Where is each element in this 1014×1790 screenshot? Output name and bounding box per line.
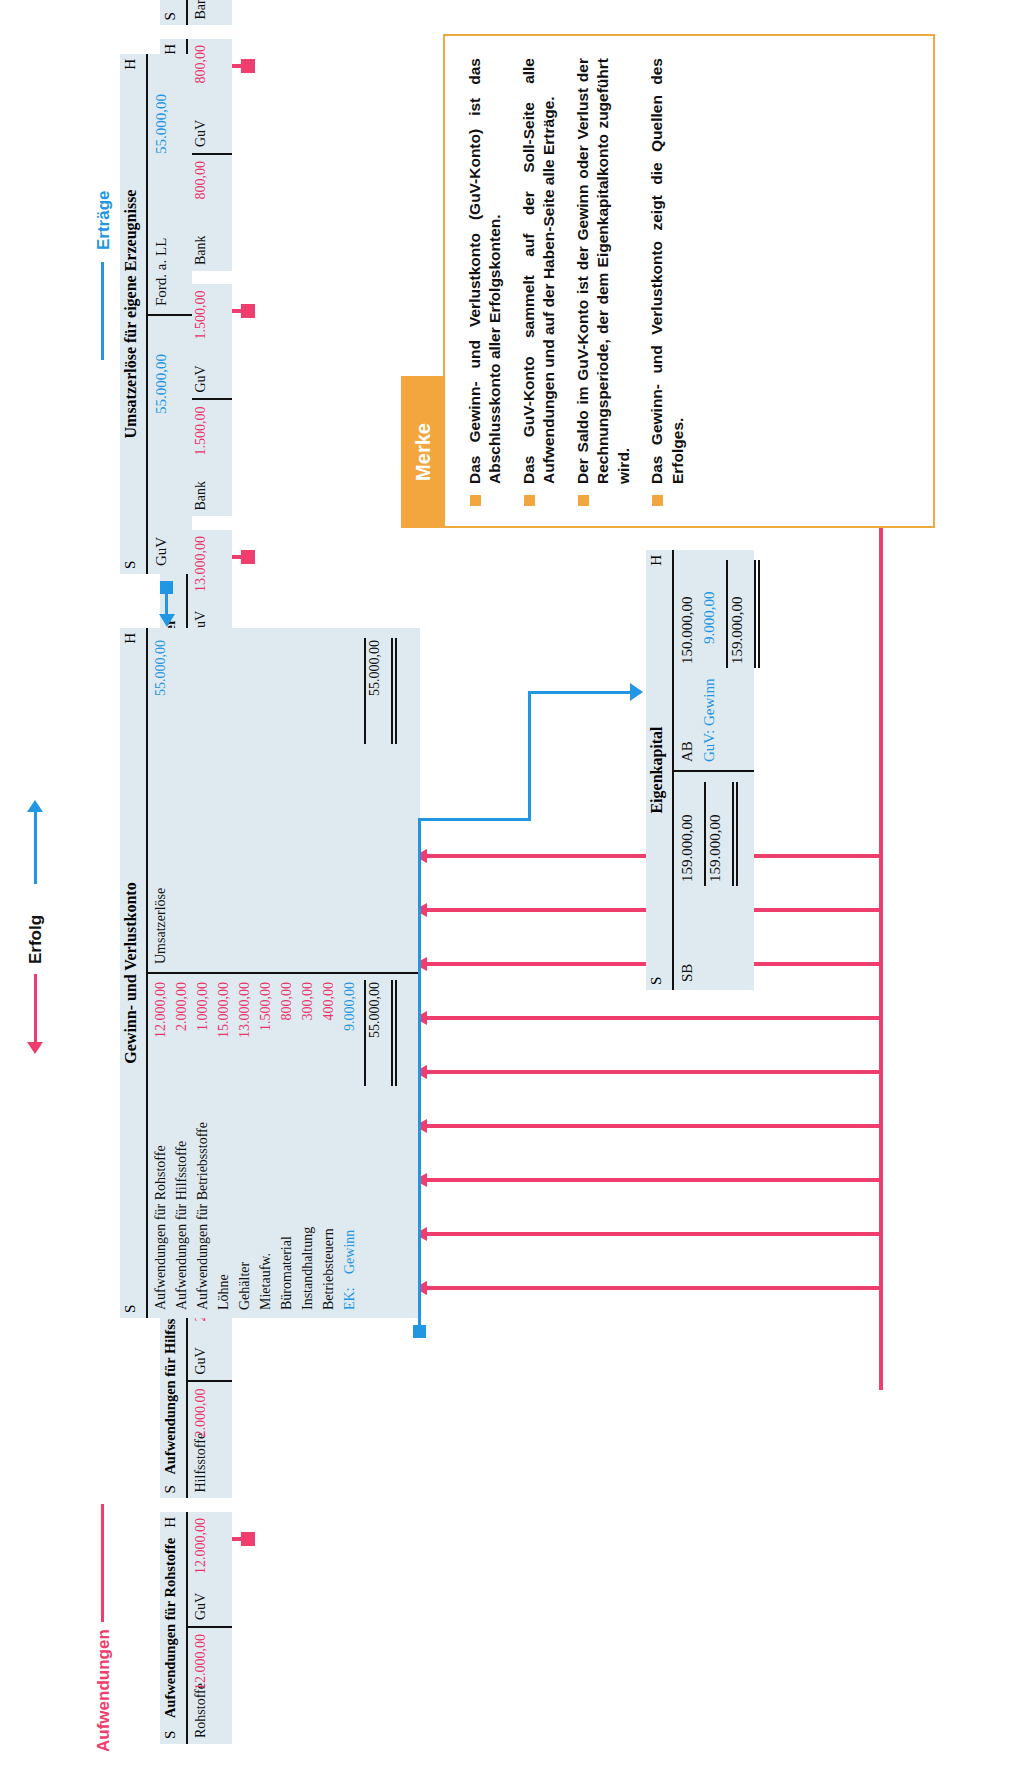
expense-connector-stub-0 (232, 1537, 244, 1541)
guv-debit-text-7: Instandhaltung (301, 1227, 316, 1310)
equity-credit-rule (726, 560, 728, 668)
equity-header: S Eigenkapital H (646, 550, 674, 990)
equity-haben-label: H (648, 555, 665, 566)
guv-debit-amount-1: 2.000,00 (175, 982, 190, 1082)
expense-riser-1 (426, 1232, 879, 1236)
merke-bullet-3: Das Gewinn- und Verlustkonto zeigt die Q… (647, 58, 688, 506)
expense-header-7: SFremdinstandhaltungH (160, 0, 188, 26)
expense-credit-amount-0: 12.000,00 (194, 1518, 209, 1574)
expense-debit-text-7: Bank (194, 0, 209, 20)
guv-debit-amount-5: 1.500,00 (259, 982, 274, 1082)
expense-connector-stub-5 (232, 310, 244, 314)
expense-body-7: Bank300,00GuV300,00 (188, 0, 232, 26)
expense-riser-2 (426, 1178, 879, 1182)
guv-equity-line-v3 (528, 691, 632, 694)
expense-haben-label-0: H (162, 1517, 179, 1528)
revenue-header: S Umsatzerlöse für eigene Erzeugnisse H (120, 54, 148, 574)
equity-credit-amount-1: 9.000,00 (702, 592, 718, 645)
equity-title: Eigenkapital (648, 550, 666, 990)
expense-body-0: Rohstoffe12.000,00GuV12.000,00 (188, 1512, 232, 1744)
expense-debit-text-1: Hilfsstoffe (194, 1433, 209, 1493)
merke-bullet-text-0: Das Gewinn- und Verlustkonto (GuV-Konto)… (466, 58, 503, 484)
equity-credit-dbl-2 (758, 560, 760, 668)
guv-credit-dbl-2 (395, 638, 397, 744)
flow-arrow-erfolg-head-blue (27, 800, 43, 812)
expense-header-0: SAufwendungen für RohstoffeH (160, 1512, 188, 1744)
expense-riser-4 (426, 1070, 879, 1074)
revenue-account: S Umsatzerlöse für eigene Erzeugnisse H … (120, 54, 192, 574)
merke-bullet-marker-3 (652, 495, 663, 506)
guv-credit-amount-0: 55.000,00 (154, 640, 169, 740)
merke-note-box: Merke Das Gewinn- und Verlustkonto (GuV-… (443, 34, 935, 528)
merke-bullet-0: Das Gewinn- und Verlustkonto (GuV-Konto)… (465, 58, 506, 506)
expense-riser-3 (426, 1124, 879, 1128)
guv-debit-balance-amount: 9.000,00 (343, 982, 358, 1082)
expense-connector-stub-4 (232, 555, 244, 559)
flow-arrow-erfolg-head (27, 1042, 43, 1054)
guv-header: S Gewinn- und Verlustkonto H (120, 628, 148, 1318)
expense-credit-amount-4: 13.000,00 (194, 536, 209, 592)
guv-equity-line-vertical (418, 818, 530, 821)
flow-arrow-erfolg-left (34, 974, 37, 1046)
expense-center-divider-1 (188, 1380, 232, 1382)
guv-credit-rule (364, 638, 366, 744)
guv-debit-dbl-2 (395, 980, 397, 1086)
guv-debit-total: 55.000,00 (368, 982, 383, 1082)
guv-debit-amount-8: 400,00 (322, 982, 337, 1082)
revenue-connector-line (165, 585, 168, 615)
revenue-debit-amount: 55.000,00 (154, 354, 170, 414)
expense-connector-stub-6 (232, 64, 244, 68)
guv-debit-rule (364, 980, 366, 1086)
expense-credit-text-0: GuV (194, 1593, 209, 1620)
expense-account-7: SFremdinstandhaltungHBank300,00GuV300,00 (160, 0, 232, 26)
equity-credit-text-1: GuV: Gewinn (702, 679, 718, 762)
guv-title: Gewinn- und Verlustkonto (122, 628, 140, 1318)
guv-debit-amount-4: 13.000,00 (238, 982, 253, 1082)
merke-bullet-1: Das GuV-Konto sammelt auf der Soll-Seite… (519, 58, 560, 506)
guv-debit-amount-7: 300,00 (301, 982, 316, 1082)
guv-debit-dbl-1 (391, 980, 393, 1086)
equity-credit-amount-0: 150.000,00 (680, 597, 696, 665)
expense-credit-text-6: GuV (194, 120, 209, 147)
equity-debit-amount: 159.000,00 (680, 815, 696, 883)
guv-debit-amount-6: 800,00 (280, 982, 295, 1082)
flow-arrow-erfolg-right (34, 812, 37, 884)
expense-title-0: Aufwendungen für Rohstoffe (162, 1512, 179, 1744)
revenue-center-divider (148, 314, 192, 316)
expense-center-divider-0 (188, 1626, 232, 1628)
flow-label-aufwendungen: Aufwendungen (94, 1629, 114, 1752)
expense-debit-amount-1: 2.000,00 (194, 1389, 209, 1438)
merke-bullet-2: Der Saldo im GuV-Konto ist der Gewinn od… (573, 58, 634, 506)
equity-body: SB 159.000,00 159.000,00 AB 150.000,00 G… (674, 550, 754, 990)
expense-debit-text-6: Bank (194, 235, 209, 265)
equity-account: S Eigenkapital H SB 159.000,00 159.000,0… (646, 550, 754, 990)
guv-credit-dbl-1 (391, 638, 393, 744)
equity-credit-dbl-1 (754, 560, 756, 668)
guv-credit-total: 55.000,00 (368, 640, 383, 740)
flow-arrow-ertraege (101, 262, 104, 360)
merke-bullet-list: Das Gewinn- und Verlustkonto (GuV-Konto)… (445, 36, 688, 526)
guv-debit-amount-3: 15.000,00 (217, 982, 232, 1082)
guv-debit-text-3: Löhne (217, 1274, 232, 1310)
expense-debit-text-0: Rohstoffe (194, 1683, 209, 1738)
revenue-body: GuV 55.000,00 Ford. a. LL 55.000,00 (148, 54, 192, 574)
expense-body-5: Bank1.500,00GuV1.500,00 (188, 285, 232, 517)
guv-debit-amount-0: 12.000,00 (154, 982, 169, 1082)
expense-debit-amount-6: 800,00 (194, 161, 209, 200)
guv-debit-text-0: Aufwendungen für Rohstoffe (154, 1145, 169, 1310)
expense-account-0: SAufwendungen für RohstoffeHRohstoffe12.… (160, 1512, 232, 1744)
expense-riser-0 (426, 1286, 879, 1290)
merke-bullet-text-2: Der Saldo im GuV-Konto ist der Gewinn od… (574, 58, 632, 484)
expense-debit-text-5: Bank (194, 481, 209, 511)
expense-riser-5 (426, 1016, 879, 1020)
guv-account: S Gewinn- und Verlustkonto H Aufwendunge… (120, 628, 420, 1318)
guv-equity-line-h1 (418, 818, 421, 1328)
merke-bullet-marker-1 (524, 495, 535, 506)
guv-center-divider (148, 972, 420, 974)
revenue-connector-arrow (159, 614, 175, 627)
equity-credit-total: 159.000,00 (730, 597, 746, 665)
guv-debit-balance-label: EK: (343, 1287, 358, 1310)
expense-center-divider-6 (188, 153, 232, 155)
expense-body-6: Bank800,00GuV800,00 (188, 39, 232, 271)
guv-debit-text-4: Gehälter (238, 1262, 253, 1310)
